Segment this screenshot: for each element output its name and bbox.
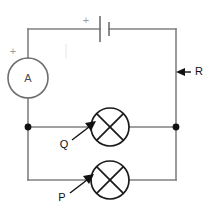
junction-node-left — [25, 124, 32, 131]
pointer-p — [70, 174, 94, 193]
battery-symbol — [100, 16, 109, 42]
lamp-p-label: P — [58, 191, 65, 203]
pointer-p-shaft — [70, 180, 87, 193]
ammeter-polarity-label: + — [10, 45, 16, 57]
circuit-diagram-canvas: + + A Q P R — [0, 0, 213, 213]
ammeter-label: A — [24, 72, 32, 84]
junction-node-right — [173, 124, 180, 131]
lamp-q-label: Q — [60, 138, 69, 150]
wire-network — [28, 29, 176, 180]
battery-polarity-label: + — [83, 14, 89, 26]
pointer-r-arrowhead — [176, 68, 185, 76]
lamp-p-symbol — [91, 161, 129, 199]
lamp-q-symbol — [91, 108, 129, 146]
branch-r-label: R — [195, 65, 203, 77]
pointer-r — [176, 68, 191, 76]
pointer-q-shaft — [72, 127, 89, 140]
circuit-svg: + + A Q P R — [0, 0, 213, 213]
